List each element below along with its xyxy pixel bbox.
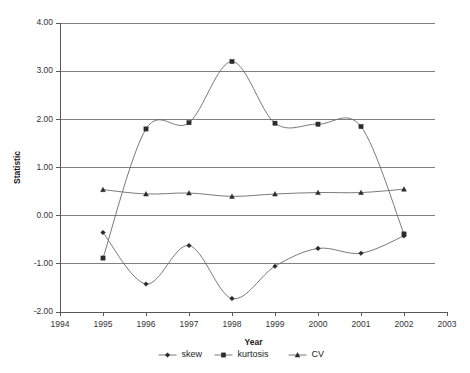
x-axis-tick-group: 1994199519961997199819992000200120022003 (51, 312, 457, 329)
data-point-skew (187, 243, 192, 248)
chart-container: -2.00-1.000.001.002.003.004.00 199419951… (0, 0, 470, 373)
chart-legend: skewkurtosisCV (159, 349, 325, 359)
x-axis-tick-label: 1994 (51, 319, 70, 329)
y-axis-tick-label: 0.00 (36, 210, 53, 220)
y-axis-tick-label: 1.00 (36, 162, 53, 172)
x-axis-tick-label: 1997 (180, 319, 199, 329)
data-point-kurtosis (316, 122, 320, 126)
data-point-kurtosis (187, 121, 191, 125)
legend-marker-skew (165, 353, 170, 358)
series-line-kurtosis (103, 62, 404, 259)
gridline-group (60, 23, 435, 312)
y-axis-tick-label: -2.00 (34, 306, 54, 316)
x-axis-tick-label: 1995 (94, 319, 113, 329)
data-point-skew (359, 251, 364, 256)
x-axis-title: Year (245, 337, 264, 347)
x-axis-tick-label: 1998 (223, 319, 242, 329)
y-axis-tick-label: 4.00 (36, 17, 53, 27)
data-point-kurtosis (144, 127, 148, 131)
data-point-skew (230, 296, 235, 301)
series-skew (101, 230, 407, 301)
series-line-skew (103, 233, 404, 299)
series-group (101, 59, 407, 300)
data-point-skew (316, 246, 321, 251)
legend-item-cv[interactable]: CV (289, 349, 325, 359)
legend-item-kurtosis[interactable]: kurtosis (215, 349, 270, 359)
data-point-kurtosis (273, 121, 277, 125)
data-point-skew (273, 264, 278, 269)
legend-marker-kurtosis (221, 353, 225, 357)
x-axis-tick-label: 2002 (395, 319, 414, 329)
legend-label-cv: CV (312, 349, 325, 359)
data-point-kurtosis (230, 59, 234, 63)
data-point-kurtosis (101, 256, 105, 260)
x-axis-tick-label: 1996 (137, 319, 156, 329)
y-axis-tick-label: 2.00 (36, 114, 53, 124)
x-axis-tick-label: 2003 (438, 319, 457, 329)
series-kurtosis (101, 59, 406, 260)
x-axis-tick-label: 2001 (352, 319, 371, 329)
data-point-kurtosis (402, 232, 406, 236)
data-point-kurtosis (359, 124, 363, 128)
y-axis-tick-group: -2.00-1.000.001.002.003.004.00 (34, 17, 60, 316)
data-point-skew (144, 282, 149, 287)
series-cv (101, 187, 407, 199)
y-axis-tick-label: -1.00 (34, 258, 54, 268)
statistic-by-year-line-chart: -2.00-1.000.001.002.003.004.00 199419951… (0, 0, 470, 373)
x-axis-tick-label: 2000 (309, 319, 328, 329)
y-axis-tick-label: 3.00 (36, 65, 53, 75)
x-axis-tick-label: 1999 (266, 319, 285, 329)
legend-item-skew[interactable]: skew (159, 349, 203, 359)
legend-label-kurtosis: kurtosis (238, 349, 270, 359)
y-axis-title: Statistic (12, 151, 22, 184)
legend-label-skew: skew (182, 349, 203, 359)
